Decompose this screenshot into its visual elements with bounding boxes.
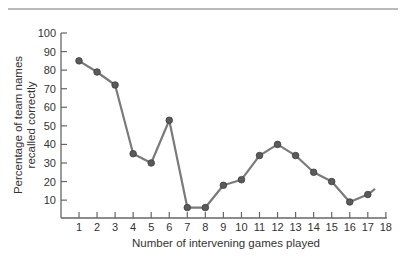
data-point-marker — [328, 178, 335, 185]
data-point-marker — [130, 150, 137, 157]
y-tick-label: 60 — [44, 101, 56, 113]
line-chart: 102030405060708090100 123456789101112131… — [0, 0, 406, 261]
data-point-marker — [292, 152, 299, 159]
data-point-marker — [238, 176, 245, 183]
data-point-marker — [365, 191, 372, 198]
x-tick-label: 2 — [94, 221, 100, 233]
x-axis-ticks: 123456789101112131415161718 — [76, 212, 392, 233]
y-tick-label: 10 — [44, 194, 56, 206]
x-tick-label: 15 — [326, 221, 338, 233]
data-point-marker — [310, 169, 317, 176]
x-tick-label: 4 — [130, 221, 136, 233]
data-point-marker — [94, 69, 101, 76]
x-tick-label: 1 — [76, 221, 82, 233]
x-axis-title: Number of intervening games played — [132, 237, 320, 249]
x-tick-label: 3 — [112, 221, 118, 233]
y-axis-title-line-2: recalled correctly — [25, 81, 37, 168]
x-tick-label: 14 — [308, 221, 320, 233]
data-point-marker — [202, 204, 209, 211]
data-point-marker — [256, 152, 263, 159]
y-tick-label: 100 — [38, 27, 56, 39]
data-point-marker — [148, 160, 155, 167]
x-tick-label: 11 — [254, 221, 265, 233]
y-tick-label: 40 — [44, 138, 56, 150]
y-tick-label: 20 — [44, 176, 56, 188]
x-tick-label: 10 — [235, 221, 247, 233]
data-point-marker — [274, 141, 281, 148]
x-tick-label: 7 — [184, 221, 190, 233]
y-tick-label: 50 — [44, 120, 56, 132]
x-tick-label: 12 — [271, 221, 283, 233]
x-tick-label: 5 — [148, 221, 154, 233]
x-tick-label: 6 — [166, 221, 172, 233]
x-tick-label: 16 — [344, 221, 356, 233]
x-tick-label: 17 — [362, 221, 374, 233]
y-tick-label: 70 — [44, 83, 56, 95]
y-tick-label: 90 — [44, 46, 56, 58]
y-axis-title-line-1: Percentage of team names — [12, 56, 24, 194]
y-axis-ticks: 102030405060708090100 — [38, 27, 67, 206]
data-point-marker — [166, 117, 173, 124]
x-tick-label: 18 — [380, 221, 392, 233]
data-point-marker — [76, 58, 83, 65]
x-tick-label: 13 — [289, 221, 301, 233]
x-tick-label: 9 — [220, 221, 226, 233]
y-tick-label: 80 — [44, 64, 56, 76]
data-point-marker — [220, 182, 227, 189]
x-tick-label: 8 — [202, 221, 208, 233]
data-point-marker — [184, 204, 191, 211]
y-tick-label: 30 — [44, 157, 56, 169]
data-point-marker — [346, 199, 353, 206]
data-series — [76, 58, 375, 211]
data-point-marker — [112, 82, 119, 89]
